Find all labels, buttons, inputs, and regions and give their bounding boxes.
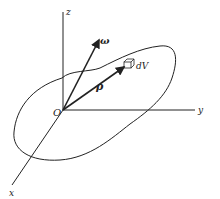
rigid-body-diagram: z y x O ω ρ dV (0, 0, 220, 199)
rho-label: ρ (95, 80, 104, 93)
x-axis-label: x (9, 188, 14, 198)
y-axis-label: y (197, 105, 204, 115)
x-axis (12, 110, 63, 185)
omega-vector (63, 40, 99, 110)
volume-element-cube-icon (124, 59, 134, 68)
volume-element-label: dV (136, 61, 150, 71)
origin-label: O (53, 107, 61, 118)
omega-label: ω (100, 35, 110, 46)
z-axis-label: z (65, 7, 71, 17)
body-outline (14, 46, 176, 160)
